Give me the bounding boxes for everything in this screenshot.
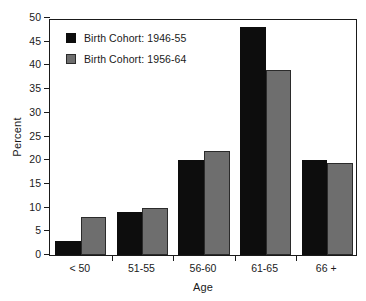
y-tick: 25	[44, 136, 50, 137]
bar	[327, 163, 353, 255]
plot-area: 05101520253035404550 Birth Cohort: 1946-…	[49, 19, 357, 256]
y-tick: 45	[44, 41, 50, 42]
x-tick-label: 51-55	[111, 262, 173, 275]
y-tick: 20	[44, 159, 50, 160]
y-tick-label: 35	[29, 82, 41, 95]
x-tick-label: 56-60	[172, 262, 234, 275]
x-tick	[296, 255, 297, 261]
y-tick: 15	[44, 183, 50, 184]
bar	[240, 27, 266, 255]
bar-chart-figure: Percent 05101520253035404550 Birth Cohor…	[0, 0, 366, 301]
x-tick	[112, 255, 113, 261]
x-tick	[173, 255, 174, 261]
x-tick-label: 66 +	[295, 262, 357, 275]
x-axis-label: Age	[49, 281, 357, 293]
bar	[302, 160, 328, 255]
y-tick-label: 40	[29, 58, 41, 71]
bar	[117, 212, 143, 255]
bar	[178, 160, 204, 255]
legend-swatch-icon	[66, 33, 76, 43]
y-tick-label: 5	[35, 224, 41, 237]
legend-label: Birth Cohort: 1956-64	[84, 53, 187, 66]
y-tick-label: 0	[35, 248, 41, 261]
x-tick-label: 61-65	[234, 262, 296, 275]
y-tick-label: 30	[29, 106, 41, 119]
bar	[266, 70, 292, 255]
y-tick-label: 15	[29, 177, 41, 190]
legend-item: Birth Cohort: 1946-55	[66, 29, 187, 47]
y-tick-label: 10	[29, 201, 41, 214]
legend-swatch-icon	[66, 54, 76, 64]
bar	[55, 241, 81, 255]
y-tick-label: 20	[29, 153, 41, 166]
bar	[204, 151, 230, 255]
y-tick: 30	[44, 112, 50, 113]
y-tick: 50	[44, 17, 50, 18]
y-tick: 0	[44, 254, 50, 255]
chart-legend: Birth Cohort: 1946-55Birth Cohort: 1956-…	[66, 29, 187, 71]
legend-label: Birth Cohort: 1946-55	[84, 32, 187, 45]
x-tick-label: < 50	[49, 262, 111, 275]
y-tick-label: 45	[29, 35, 41, 48]
y-axis-label: Percent	[9, 19, 25, 256]
y-tick: 5	[44, 230, 50, 231]
y-tick-label: 25	[29, 130, 41, 143]
bar	[142, 208, 168, 255]
y-tick: 40	[44, 64, 50, 65]
x-tick	[235, 255, 236, 261]
y-tick-label: 50	[29, 11, 41, 24]
bar	[81, 217, 107, 255]
y-tick: 10	[44, 207, 50, 208]
y-tick: 35	[44, 88, 50, 89]
legend-item: Birth Cohort: 1956-64	[66, 50, 187, 68]
